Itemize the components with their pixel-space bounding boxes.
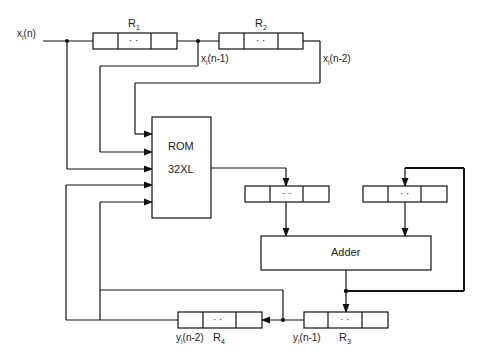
signal-x-n2: xi(n-2) — [323, 54, 351, 66]
buffer-right-dots: · · — [400, 189, 409, 199]
register-r1-dots: · · — [129, 36, 138, 46]
register-r3-label: R3 — [339, 332, 351, 345]
input-label-xn: xi(n) — [17, 29, 36, 41]
register-r1-label: R1 — [128, 18, 140, 31]
register-r3-dots: · · — [340, 315, 349, 325]
rom-label: ROM — [168, 141, 194, 152]
register-r4-label: R4 — [213, 332, 225, 345]
buffer-left-dots: · · — [282, 189, 291, 199]
signal-y-n1: yi(n-1) — [293, 333, 321, 345]
signal-x-n1: xi(n-1) — [201, 54, 229, 66]
signal-y-n2: yi(n-2) — [176, 333, 204, 345]
adder-label: Adder — [331, 247, 360, 258]
register-r2-label: R2 — [255, 18, 267, 31]
register-r2-dots: · · — [256, 36, 265, 46]
diagram-wiring — [0, 0, 489, 363]
register-r4-dots: · · — [213, 315, 222, 325]
rom-size-label: 32XL — [168, 164, 194, 175]
